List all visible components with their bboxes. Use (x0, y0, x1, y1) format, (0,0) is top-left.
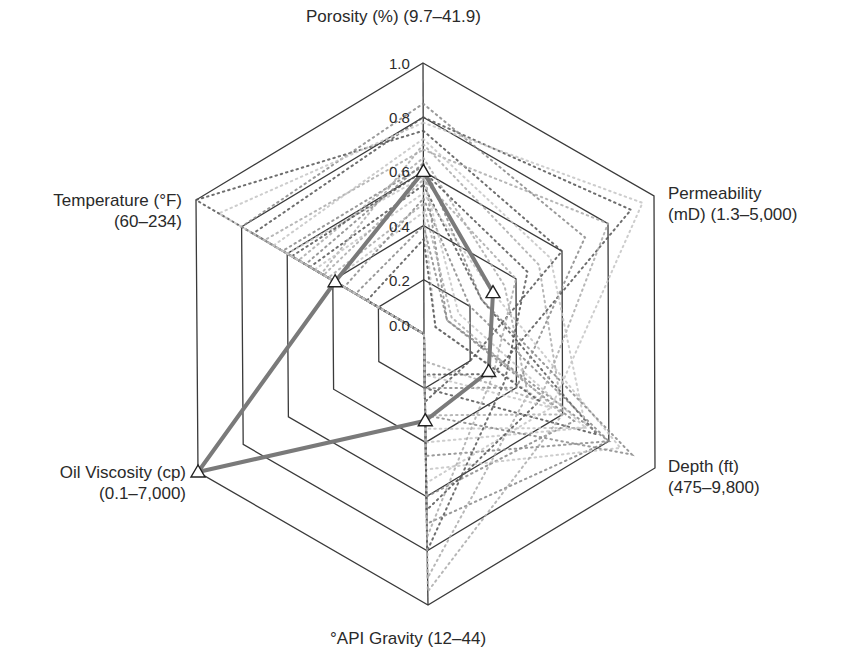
axis-label-permeability: Permeability (mD) (1.3–5,000) (668, 183, 797, 225)
triangle-marker (482, 365, 496, 377)
radial-tick-5: 1.0 (389, 56, 410, 72)
axis-label-line: (60–234) (0, 211, 182, 232)
axis-label-line: Porosity (%) (9.7–41.9) (306, 6, 481, 27)
axis-label-temperature: Temperature (°F) (60–234) (0, 190, 182, 232)
radial-tick-4: 0.8 (389, 110, 410, 126)
radial-tick-0: 0.0 (389, 318, 410, 334)
axis-label-line: (mD) (1.3–5,000) (668, 204, 797, 225)
axis-label-line: Oil Viscosity (cp) (0, 462, 186, 483)
axis-label-line: Temperature (°F) (0, 190, 182, 211)
axis-label-api-gravity: °API Gravity (12–44) (330, 628, 486, 649)
axis-label-depth: Depth (ft) (475–9,800) (668, 456, 760, 498)
axis-label-porosity: Porosity (%) (9.7–41.9) (306, 6, 481, 27)
radar-grid (196, 63, 655, 605)
axis-label-line: (475–9,800) (668, 477, 760, 498)
axis-label-oil-viscosity: Oil Viscosity (cp) (0.1–7,000) (0, 462, 186, 504)
radar-chart (0, 0, 849, 666)
triangle-marker (416, 164, 430, 176)
radial-tick-2: 0.4 (389, 219, 410, 235)
axis-label-line: (0.1–7,000) (0, 483, 186, 504)
radial-tick-1: 0.2 (389, 273, 410, 289)
radial-tick-3: 0.6 (389, 164, 410, 180)
axis-label-line: Depth (ft) (668, 456, 760, 477)
axis-label-line: °API Gravity (12–44) (330, 628, 486, 649)
axis-label-line: Permeability (668, 183, 797, 204)
